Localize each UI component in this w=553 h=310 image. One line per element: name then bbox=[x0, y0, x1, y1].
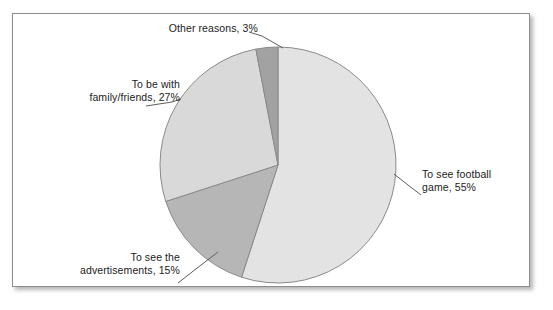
pie-label-other-reasons-line1: Other reasons, 3% bbox=[118, 22, 258, 35]
pie-label-family-friends-line2: family/friends, 27% bbox=[28, 91, 180, 104]
pie-label-football-game-line1: To see football bbox=[422, 168, 542, 181]
leader-line-advertisements bbox=[178, 252, 218, 283]
pie-label-other-reasons: Other reasons, 3% bbox=[118, 22, 258, 35]
pie-label-family-friends-line1: To be with bbox=[28, 78, 180, 91]
leader-line-football-game bbox=[394, 174, 421, 195]
screenshot-page: Other reasons, 3% To be with family/frie… bbox=[0, 0, 553, 310]
pie-label-football-game-line2: game, 55% bbox=[422, 181, 542, 194]
pie-label-family-friends: To be with family/friends, 27% bbox=[28, 78, 180, 104]
pie-label-advertisements: To see the advertisements, 15% bbox=[28, 251, 180, 277]
pie-label-advertisements-line2: advertisements, 15% bbox=[28, 264, 180, 277]
pie-label-football-game: To see football game, 55% bbox=[422, 168, 542, 194]
pie-label-advertisements-line1: To see the bbox=[28, 251, 180, 264]
